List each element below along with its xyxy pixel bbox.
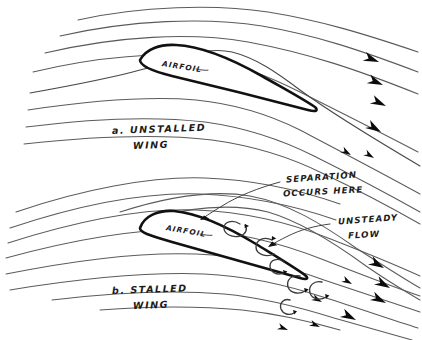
flow-arrow-icon: [374, 276, 392, 292]
airfoil-shape-unstalled: [140, 45, 317, 111]
unsteady-callout-line2: FLOW: [348, 229, 381, 241]
airfoil-flow-figure: AIRFOIL a. UNSTALLED WING: [0, 0, 422, 340]
streamline: [26, 119, 420, 212]
streamline: [6, 254, 420, 312]
streamline: [10, 274, 418, 328]
eddy-swirl-icon: [281, 300, 294, 315]
callout-unsteady-flow: UNSTEADY FLOW: [268, 212, 398, 247]
flow-arrow-icon: [367, 74, 385, 89]
panel-a-caption-line1: a. UNSTALLED: [112, 122, 206, 136]
streamline: [52, 292, 412, 340]
panel-b-stalled-wing: AIRFOIL: [6, 178, 420, 340]
flow-arrow-icon: [340, 309, 358, 324]
flow-arrow-icon: [363, 150, 375, 161]
eddy-swirl-icon: [310, 282, 326, 299]
figure-canvas: AIRFOIL a. UNSTALLED WING: [0, 0, 422, 340]
panel-a-caption-line2: WING: [133, 139, 169, 151]
flow-arrow-icon: [365, 120, 383, 136]
panel-b-caption-line2: WING: [133, 299, 169, 311]
streamline: [78, 7, 418, 52]
flow-arrow-icon: [341, 276, 353, 287]
unsteady-callout-line1: UNSTEADY: [338, 212, 399, 226]
flow-arrow-icon: [277, 323, 289, 333]
flow-arrow-icon: [363, 52, 381, 66]
panel-b-caption-line1: b. STALLED: [112, 282, 188, 296]
flow-arrow-icon: [370, 95, 388, 110]
eddy-arrow-icon: [272, 236, 277, 241]
flow-arrow-icon: [340, 147, 352, 158]
panel-b-streamlines: [6, 178, 420, 340]
separation-callout-line1: SEPARATION: [286, 170, 358, 185]
flow-arrow-icon: [370, 292, 388, 307]
separation-callout-line2: OCCURS HERE: [283, 184, 364, 198]
